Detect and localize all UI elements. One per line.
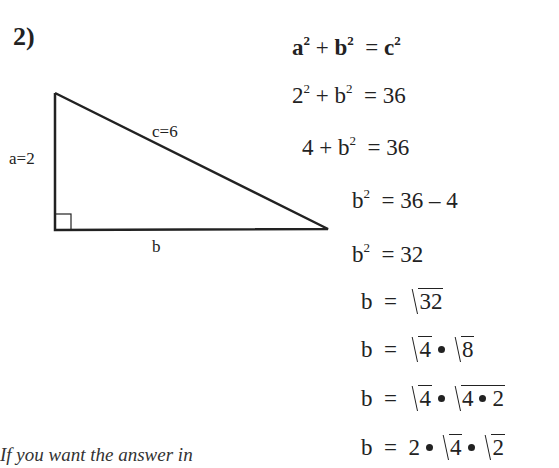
equation-line-5: b2 = 32 [352,243,423,266]
square-root-symbol: 42 [451,387,505,410]
equation-line-2: 22 + b2 = 36 [292,84,406,107]
square-root-symbol: 8 [451,338,475,361]
multiply-dot-icon [468,444,475,451]
equation-line-1: a2 + b2 = c2 [292,36,401,59]
square-root-symbol: 32 [408,290,443,313]
equation-line-8: b = 442 [361,387,505,410]
explanatory-note: If you want the answer in [0,444,193,466]
multiply-dot-icon [438,346,445,353]
equation-line-9: b = 242 [361,436,505,459]
side-c-label: c=6 [152,122,178,142]
equation-line-7: b = 48 [361,338,474,361]
multiply-dot-icon [426,444,433,451]
side-b-label: b [152,237,161,257]
equation-line-6: b = 32 [361,290,443,313]
square-root-symbol: 4 [439,436,463,459]
right-angle-marker [55,214,71,230]
square-root-symbol: 2 [481,436,505,459]
multiply-dot-icon [479,395,486,402]
side-a-label: a=2 [9,149,35,169]
equation-line-4: b2 = 36 – 4 [352,189,458,212]
equation-line-3: 4 + b2 = 36 [302,136,409,159]
multiply-dot-icon [438,395,445,402]
square-root-symbol: 4 [408,338,432,361]
square-root-symbol: 4 [408,387,432,410]
